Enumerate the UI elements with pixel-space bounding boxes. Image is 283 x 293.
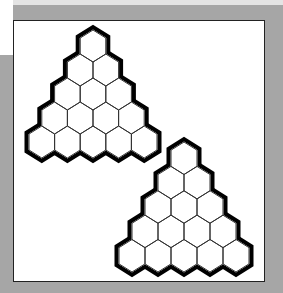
hex-triangle-top xyxy=(29,30,157,158)
hex-triangle-bottom xyxy=(119,142,249,272)
hex-puzzles xyxy=(0,0,283,293)
